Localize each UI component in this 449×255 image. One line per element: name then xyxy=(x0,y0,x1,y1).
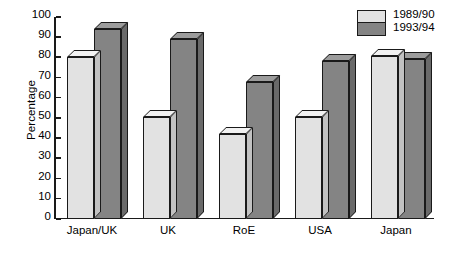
x-axis-category-label: Japan xyxy=(358,224,434,236)
bar-front-face xyxy=(219,134,246,219)
bar-chart: Percentage 1009080706050403020100 Japan/… xyxy=(0,0,449,255)
y-axis-tick-label: 100 xyxy=(32,8,51,20)
legend-swatch-1989-90 xyxy=(358,11,385,23)
legend: 1989/90 1993/94 xyxy=(357,10,435,36)
bar-front-face xyxy=(67,57,94,219)
legend-label-1993-94: 1993/94 xyxy=(393,21,435,34)
y-axis-title: Percentage xyxy=(25,30,37,190)
y-axis-tick-label: 10 xyxy=(38,190,51,202)
bar-side-face xyxy=(170,110,177,219)
y-axis-tick-label: 50 xyxy=(38,109,51,121)
y-axis-tick-label: 70 xyxy=(38,69,51,81)
y-axis-tick-label: 60 xyxy=(38,89,51,101)
y-axis-tick-label: 20 xyxy=(38,170,51,182)
legend-swatch-1993-94 xyxy=(358,23,385,35)
bar-side-face xyxy=(349,54,356,219)
bar-group xyxy=(67,17,121,219)
y-axis-tick-label: 0 xyxy=(45,210,51,222)
bar xyxy=(371,56,398,219)
bar-side-face xyxy=(425,52,432,219)
bar-side-face xyxy=(246,127,253,219)
y-axis-tick-label: 90 xyxy=(38,28,51,40)
bar-side-face xyxy=(197,32,204,219)
bar-group xyxy=(295,17,349,219)
legend-swatch-box xyxy=(357,10,386,36)
legend-label-1989-90: 1989/90 xyxy=(393,8,435,21)
bar-front-face xyxy=(371,56,398,219)
x-axis-category-label: Japan/UK xyxy=(54,224,130,236)
bar-group xyxy=(219,17,273,219)
bar-side-face xyxy=(322,110,329,219)
plot-area: 1009080706050403020100 xyxy=(54,17,434,219)
x-axis-category-labels: Japan/UKUKRoEUSAJapan xyxy=(54,224,434,242)
bar-front-face xyxy=(143,117,170,219)
bar-group xyxy=(371,17,425,219)
y-axis-tick-label: 40 xyxy=(38,129,51,141)
bar xyxy=(295,117,322,219)
bar-side-face xyxy=(94,50,101,219)
bar-side-face xyxy=(398,49,405,219)
x-axis-category-label: RoE xyxy=(206,224,282,236)
y-axis-tick-label: 80 xyxy=(38,48,51,60)
bar-group xyxy=(143,17,197,219)
bar-side-face xyxy=(121,22,128,219)
bars-layer xyxy=(54,17,434,219)
bar xyxy=(143,117,170,219)
bar xyxy=(67,57,94,219)
y-axis-tick-label: 30 xyxy=(38,149,51,161)
bar-side-face xyxy=(273,74,280,219)
x-axis-category-label: UK xyxy=(130,224,206,236)
legend-labels: 1989/90 1993/94 xyxy=(393,8,435,34)
bar-front-face xyxy=(295,117,322,219)
x-axis-category-label: USA xyxy=(282,224,358,236)
bar xyxy=(219,134,246,219)
